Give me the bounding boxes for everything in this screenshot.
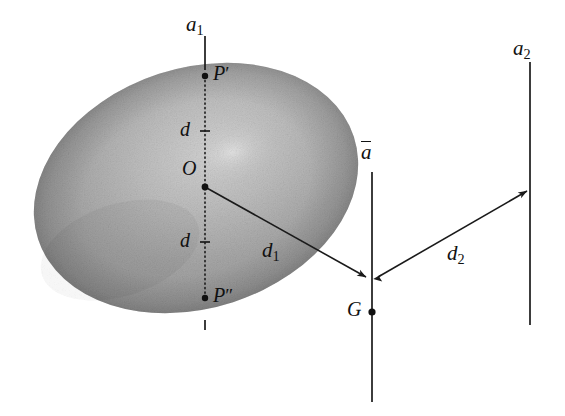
distance-d1-label: d1 xyxy=(262,240,280,263)
distance-d-upper-label: d xyxy=(180,119,190,139)
point-p-prime-dot xyxy=(202,73,208,79)
point-p-prime-label: P′ xyxy=(213,63,229,83)
figure-canvas: a1 a2 a P′ P″ O G d d d1 d2 xyxy=(0,0,565,416)
ellipsoid-body xyxy=(1,23,391,354)
diagram-svg xyxy=(0,0,565,416)
distance-d2-label: d2 xyxy=(447,243,465,266)
point-p-double-prime-dot xyxy=(202,295,208,301)
point-p-double-prime-label: P″ xyxy=(213,285,233,305)
axis-a2-label: a2 xyxy=(513,38,531,61)
distance-d-lower-label: d xyxy=(180,230,190,250)
arrow-d2 xyxy=(373,191,527,281)
point-o-dot xyxy=(202,184,209,191)
point-o-label: O xyxy=(182,158,196,178)
point-g-label: G xyxy=(347,299,361,319)
point-g-dot xyxy=(368,308,375,315)
axis-abar-label: a xyxy=(361,142,372,163)
axis-a1-label: a1 xyxy=(186,14,204,37)
